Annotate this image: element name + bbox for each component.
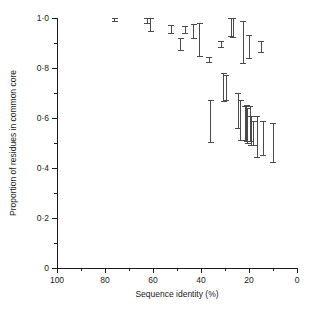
error-bar-marker [246,36,252,59]
error-bar-marker [254,116,260,158]
x-tick-label: 40 [196,275,206,285]
data-points-group [112,18,276,163]
y-tick-label: 0·8 [37,63,50,73]
y-tick-label: 0·6 [37,113,50,123]
error-bar-marker [182,27,188,34]
error-bar-marker [218,42,224,47]
error-bar-marker [148,18,154,32]
x-tick-label: 100 [50,275,64,285]
error-bar-marker [144,18,150,23]
error-bar-marker [258,41,264,53]
y-tick-label: 0·4 [37,163,50,173]
figure-container: 10080604020000·20·40·60·81·0 Sequence id… [0,0,317,313]
error-bar-marker [191,24,197,38]
y-tick-label: 0·2 [37,213,50,223]
error-bar-marker [206,58,212,63]
x-tick-label: 60 [148,275,158,285]
y-tick-label: 0 [44,263,49,273]
y-tick-label: 1·0 [37,13,50,23]
error-bar-marker [112,18,118,21]
x-tick-label: 0 [295,275,300,285]
ticks-group [52,18,297,273]
error-bar-marker [240,22,246,64]
scatter-plot: 10080604020000·20·40·60·81·0 Sequence id… [0,0,317,313]
tick-labels-group: 10080604020000·20·40·60·81·0 [37,13,300,285]
error-bar-marker [270,124,276,163]
error-bar-marker [260,121,266,155]
error-bar-marker [244,105,250,141]
error-bar-marker [208,100,214,143]
axis-lines [57,18,297,268]
x-tick-label: 80 [100,275,110,285]
error-bar-marker [197,23,203,56]
y-axis-title: Proportion of residues in common core [8,70,18,216]
x-tick-label: 20 [244,275,254,285]
error-bar-marker [178,39,184,51]
axes-group [57,18,297,268]
x-axis-title: Sequence identity (%) [135,289,218,299]
error-bar-marker [168,25,174,33]
